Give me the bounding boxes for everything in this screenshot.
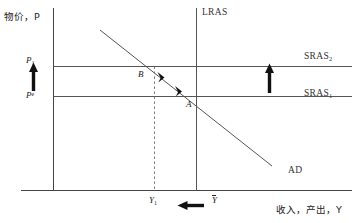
sras2-label-subscript: 2 [329, 55, 333, 62]
price-tick-pe-superscript: e [32, 91, 35, 97]
sras2-label-base: SRAS [304, 51, 329, 61]
ad-curve [100, 30, 272, 166]
ad-label: AD [288, 166, 302, 176]
output-tick-y1-subscript: 1 [154, 200, 157, 206]
sras1-label-base: SRAS [304, 88, 329, 98]
ad-movement-arrowheads [158, 72, 183, 97]
output-tick-ybar-base: Y [212, 196, 217, 205]
point-b-label: B [138, 70, 144, 79]
x-axis-title: 收入，产出，Y [276, 205, 342, 215]
sras-shift-arrow [265, 64, 274, 94]
price-tick-p1-subscript: 1 [32, 60, 35, 66]
price-tick-pe: Pe [26, 91, 34, 100]
diagram-canvas [0, 0, 362, 223]
output-tick-ybar: Y [212, 196, 217, 205]
sras1-label-subscript: 1 [329, 92, 333, 99]
ad-as-diagram: 物价，P 收入，产出，Y P1 Pe Y1 Y LRAS SRAS2 SRAS1… [0, 0, 362, 223]
point-a-label: A [186, 100, 192, 109]
lras-label: LRAS [202, 8, 227, 18]
sras2-label: SRAS2 [304, 52, 333, 62]
sras1-label: SRAS1 [304, 89, 333, 99]
price-tick-p1: P1 [26, 56, 35, 66]
output-tick-y1: Y1 [149, 196, 157, 206]
output-shift-arrow [178, 201, 205, 210]
price-shift-arrow [29, 63, 38, 92]
y-axis-title: 物价，P [4, 12, 40, 22]
